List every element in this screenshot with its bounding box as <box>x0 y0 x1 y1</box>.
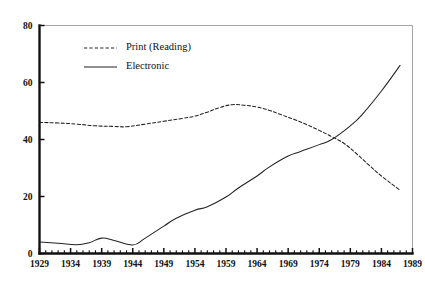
x-tick-label: 1979 <box>341 259 360 269</box>
y-axis-ticks: 020406080 <box>23 21 45 259</box>
chart-container: 020406080 192919341939194419491954195919… <box>0 0 425 282</box>
x-tick-label: 1954 <box>185 259 204 269</box>
x-tick-label: 1964 <box>248 259 267 269</box>
legend-label-print-reading: Print (Reading) <box>126 41 192 53</box>
x-tick-label: 1989 <box>403 259 422 269</box>
series-line-electronic <box>40 65 401 245</box>
y-tick-label: 80 <box>23 21 33 31</box>
x-tick-label: 1929 <box>30 259 49 269</box>
line-chart: 020406080 192919341939194419491954195919… <box>0 0 425 282</box>
series-line-print-reading <box>40 105 401 191</box>
chart-legend: Print (Reading)Electronic <box>84 41 192 71</box>
x-tick-label: 1934 <box>61 259 80 269</box>
x-tick-label: 1939 <box>92 259 111 269</box>
x-tick-label: 1949 <box>154 259 173 269</box>
y-tick-label: 40 <box>23 135 33 145</box>
x-tick-label: 1969 <box>279 259 298 269</box>
x-tick-label: 1974 <box>310 259 329 269</box>
legend-label-electronic: Electronic <box>126 60 169 71</box>
x-axis-ticks: 1929193419391944194919541959196419691974… <box>30 248 422 269</box>
y-tick-label: 20 <box>23 192 33 202</box>
x-tick-label: 1959 <box>217 259 236 269</box>
x-tick-label: 1944 <box>123 259 142 269</box>
y-tick-label: 60 <box>23 78 33 88</box>
y-tick-label: 0 <box>28 249 33 259</box>
data-series-group <box>40 65 401 245</box>
x-tick-label: 1984 <box>372 259 391 269</box>
plot-frame <box>40 26 413 254</box>
